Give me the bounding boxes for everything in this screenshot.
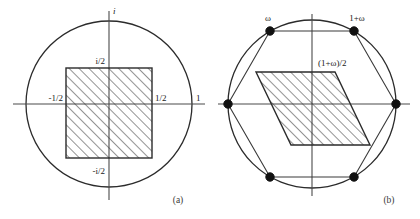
label-half: 1/2 xyxy=(155,93,167,103)
label-neg-i-half: -i/2 xyxy=(93,166,106,176)
vertex-dot-one-plus-omega xyxy=(350,27,358,35)
panel-a: i i/2 -i/2 -1/2 1/2 1 (a) xyxy=(13,6,205,206)
label-neg-half: -1/2 xyxy=(49,93,64,103)
caption-a: (a) xyxy=(173,195,184,206)
square-region-fill-a xyxy=(66,68,152,158)
label-one: 1 xyxy=(196,93,201,103)
label-omega: ω xyxy=(265,13,271,23)
label-i: i xyxy=(113,6,116,16)
vertex-dot-omega xyxy=(266,27,274,35)
label-half-one-plus-omega: (1+ω)/2 xyxy=(318,58,347,68)
caption-b: (b) xyxy=(383,195,394,206)
label-one-plus-omega: 1+ω xyxy=(349,13,365,23)
figure-canvas: i i/2 -i/2 -1/2 1/2 1 (a) xyxy=(0,0,420,219)
panel-b: ω 1+ω (1+ω)/2 (b) xyxy=(218,13,410,206)
figure-root: i i/2 -i/2 -1/2 1/2 1 (a) xyxy=(0,0,420,219)
vertex-dot-right xyxy=(392,100,400,108)
vertex-dot-left xyxy=(224,100,232,108)
vertex-dot-bottom-right xyxy=(350,173,358,181)
vertex-dot-bottom-left xyxy=(266,173,274,181)
label-i-half: i/2 xyxy=(95,56,105,66)
